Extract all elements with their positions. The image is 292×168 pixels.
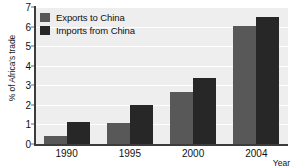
legend-swatch-imports-icon xyxy=(40,26,50,35)
y-tick-label: 0 xyxy=(14,139,31,150)
legend: Exports to China Imports from China xyxy=(40,11,135,37)
bar-imports-2004 xyxy=(256,17,279,144)
legend-swatch-exports-icon xyxy=(40,13,50,22)
y-tick-label: 4 xyxy=(14,60,31,71)
x-axis-title: Year xyxy=(273,158,290,168)
x-tick-label: 1990 xyxy=(56,148,78,159)
y-tick-label: 7 xyxy=(14,2,31,13)
y-tick-label: 2 xyxy=(14,99,31,110)
x-tick-label: 1995 xyxy=(119,148,141,159)
y-tick-label: 3 xyxy=(14,80,31,91)
bar-imports-1990 xyxy=(67,122,90,145)
bar-chart-figure: % of Africa's trade 01234567 Exports to … xyxy=(0,0,292,168)
legend-item-imports: Imports from China xyxy=(40,24,135,36)
bar-imports-1995 xyxy=(130,105,153,144)
y-axis-tick-labels: 01234567 xyxy=(14,0,31,168)
legend-label-imports: Imports from China xyxy=(56,25,135,36)
x-tick-label: 2000 xyxy=(182,148,204,159)
y-tick-label: 5 xyxy=(14,41,31,52)
bar-imports-2000 xyxy=(193,78,216,144)
bar-exports-1995 xyxy=(107,123,130,144)
y-tick-label: 6 xyxy=(14,21,31,32)
bar-exports-2000 xyxy=(170,92,193,144)
legend-item-exports: Exports to China xyxy=(40,11,135,23)
bar-exports-2004 xyxy=(233,26,256,144)
x-axis-line xyxy=(34,144,288,146)
y-tick-label: 1 xyxy=(14,119,31,130)
legend-label-exports: Exports to China xyxy=(56,12,125,23)
y-axis-line xyxy=(34,6,36,145)
x-tick-label: 2004 xyxy=(245,148,267,159)
bar-exports-1990 xyxy=(44,136,67,144)
gridline xyxy=(35,7,288,8)
